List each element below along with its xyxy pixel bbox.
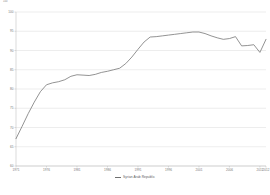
legend-line-swatch <box>115 177 121 178</box>
chart-svg: 1009590858075706560 19711976198119861991… <box>0 0 270 175</box>
x-tick-label: 1991 <box>135 168 142 172</box>
chart-legend: Syrian Arab Republic <box>0 176 270 179</box>
y-tick-label: 65 <box>10 145 14 149</box>
x-tick-label: 1971 <box>13 168 20 172</box>
series-line <box>16 32 266 139</box>
y-tick-label: 70 <box>10 126 14 130</box>
x-tick-label: 2001 <box>195 168 202 172</box>
y-tick-label: 80 <box>10 87 14 91</box>
x-tick-label: 1981 <box>74 168 81 172</box>
y-tick-label: 90 <box>10 49 14 53</box>
plot-area: 1009590858075706560 19711976198119861991… <box>0 0 270 175</box>
x-tick-label: 1986 <box>104 168 111 172</box>
legend-label: Syrian Arab Republic <box>123 176 155 179</box>
y-tick-label: 85 <box>10 68 14 72</box>
y-tick-label: 95 <box>10 29 14 33</box>
x-tick-label: 1996 <box>165 168 172 172</box>
gridlines-group <box>16 12 266 166</box>
chart-container: 100 1009590858075706560 1971197619811986… <box>0 0 270 195</box>
series-group <box>16 32 266 139</box>
y-tick-label: 100 <box>8 10 13 14</box>
x-tick-label: 2006 <box>226 168 233 172</box>
x-tick-label: 2012 <box>263 168 270 172</box>
y-axis-ticks-group: 1009590858075706560 <box>8 10 16 168</box>
x-axis-ticks-group: 1971197619811986199119962001200620112012 <box>13 166 270 172</box>
y-tick-label: 75 <box>10 106 14 110</box>
x-tick-label: 1976 <box>43 168 50 172</box>
